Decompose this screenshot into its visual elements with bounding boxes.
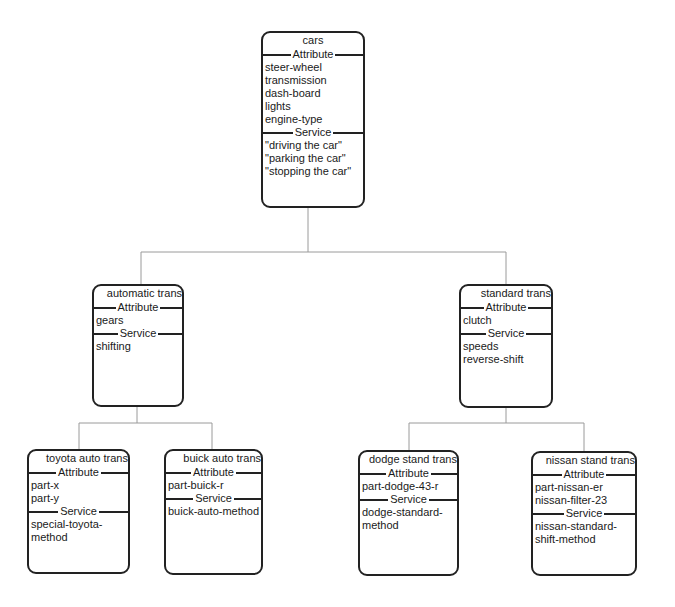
attribute-list: part-nissan-er nissan-filter-23 — [533, 481, 635, 507]
attribute-divider: Attribute — [166, 466, 261, 479]
class-box-buick-auto-trans[interactable]: buick auto trans Attribute part-buick-r … — [164, 449, 263, 575]
class-box-standard-trans[interactable]: standard trans Attribute clutch Service … — [459, 284, 553, 408]
class-name: nissan stand trans — [533, 453, 635, 468]
service-list: buick-auto-method — [166, 505, 261, 518]
class-box-automatic-trans[interactable]: automatic trans Attribute gears Service … — [92, 284, 184, 407]
attribute-divider: Attribute — [29, 466, 128, 479]
class-name: standard trans — [461, 286, 551, 301]
attribute-divider: Attribute — [263, 48, 363, 61]
class-box-cars[interactable]: cars Attribute steer-wheel transmission … — [261, 31, 365, 208]
attribute-list: clutch — [461, 314, 551, 327]
service-divider: Service — [360, 493, 457, 506]
service-list: shifting — [94, 340, 182, 353]
class-name: dodge stand trans — [360, 452, 457, 467]
service-divider: Service — [29, 505, 128, 518]
service-list: dodge-standard- method — [360, 506, 457, 532]
attribute-list: part-dodge-43-r — [360, 480, 457, 493]
service-divider: Service — [166, 492, 261, 505]
class-name: cars — [263, 33, 363, 48]
service-divider: Service — [94, 327, 182, 340]
class-box-toyota-auto-trans[interactable]: toyota auto trans Attribute part-x part-… — [27, 449, 130, 574]
attribute-list: steer-wheel transmission dash-board ligh… — [263, 61, 363, 126]
class-name: automatic trans — [94, 286, 182, 301]
service-divider: Service — [461, 327, 551, 340]
attribute-divider: Attribute — [94, 301, 182, 314]
attribute-divider: Attribute — [461, 301, 551, 314]
service-divider: Service — [263, 126, 363, 139]
connector-standard-children — [409, 407, 584, 452]
class-box-nissan-stand-trans[interactable]: nissan stand trans Attribute part-nissan… — [531, 451, 637, 576]
connector-automatic-children — [79, 406, 212, 450]
service-list: "driving the car" "parking the car" "sto… — [263, 139, 363, 178]
service-list: speeds reverse-shift — [461, 340, 551, 366]
attribute-divider: Attribute — [360, 467, 457, 480]
attribute-divider: Attribute — [533, 468, 635, 481]
service-list: nissan-standard- shift-method — [533, 520, 635, 546]
class-box-dodge-stand-trans[interactable]: dodge stand trans Attribute part-dodge-4… — [358, 450, 459, 576]
attribute-list: part-x part-y — [29, 479, 128, 505]
service-divider: Service — [533, 507, 635, 520]
service-list: special-toyota- method — [29, 518, 128, 544]
connector-cars-children — [141, 207, 506, 285]
class-name: buick auto trans — [166, 451, 261, 466]
class-name: toyota auto trans — [29, 451, 128, 466]
attribute-list: part-buick-r — [166, 479, 261, 492]
attribute-list: gears — [94, 314, 182, 327]
